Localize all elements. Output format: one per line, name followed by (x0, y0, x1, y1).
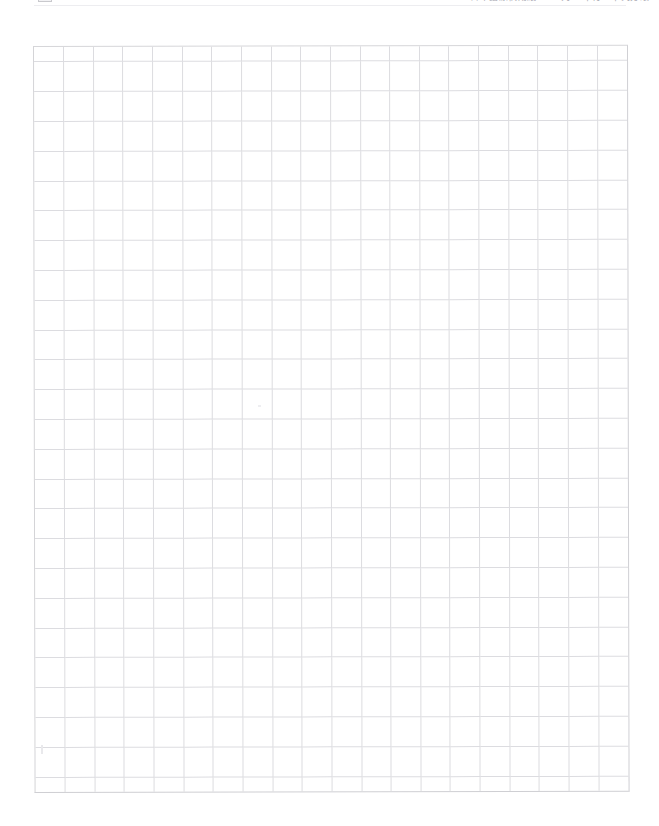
grid-cell[interactable] (569, 627, 599, 657)
grid-cell[interactable] (538, 46, 568, 61)
grid-cell[interactable] (64, 181, 94, 211)
grid-cell[interactable] (391, 508, 421, 538)
grid-cell[interactable] (182, 62, 212, 92)
grid-cell[interactable] (35, 330, 65, 360)
grid-cell[interactable] (271, 61, 301, 91)
grid-cell[interactable] (183, 359, 213, 389)
grid-cell[interactable] (213, 479, 243, 509)
grid-cell[interactable] (183, 508, 213, 538)
grid-cell[interactable] (213, 628, 243, 658)
grid-cell[interactable] (243, 568, 273, 598)
grid-cell[interactable] (272, 568, 302, 598)
grid-cell[interactable] (65, 479, 95, 509)
grid-cell[interactable] (124, 628, 154, 658)
grid-cell[interactable] (301, 61, 331, 91)
grid-cell[interactable] (182, 121, 212, 151)
grid-cell[interactable] (599, 746, 629, 776)
grid-cell[interactable] (332, 657, 362, 687)
grid-cell[interactable] (65, 568, 95, 598)
grid-cell[interactable] (391, 657, 421, 687)
grid-cell[interactable] (242, 449, 272, 479)
grid-cell[interactable] (302, 449, 332, 479)
grid-cell[interactable] (508, 120, 538, 150)
grid-cell[interactable] (64, 419, 94, 449)
grid-cell[interactable] (154, 777, 184, 792)
grid-cell[interactable] (302, 687, 332, 717)
grid-cell[interactable] (569, 537, 599, 567)
grid-cell[interactable] (182, 91, 212, 121)
grid-cell[interactable] (65, 777, 95, 792)
grid-cell[interactable] (184, 717, 214, 747)
grid-cell[interactable] (568, 210, 598, 240)
grid-cell[interactable] (480, 657, 510, 687)
grid-cell[interactable] (302, 627, 332, 657)
grid-cell[interactable] (420, 299, 450, 329)
grid-cell[interactable] (65, 747, 95, 777)
grid-cell[interactable] (124, 419, 154, 449)
grid-cell[interactable] (243, 538, 273, 568)
grid-cell[interactable] (480, 508, 510, 538)
grid-cell[interactable] (124, 687, 154, 717)
grid-cell[interactable] (331, 389, 361, 419)
grid-cell[interactable] (509, 597, 539, 627)
grid-cell[interactable] (362, 776, 392, 791)
grid-cell[interactable] (332, 776, 362, 791)
grid-cell[interactable] (272, 508, 302, 538)
grid-cell[interactable] (480, 776, 510, 791)
grid-cell[interactable] (598, 239, 628, 269)
grid-cell[interactable] (361, 389, 391, 419)
grid-cell[interactable] (93, 91, 123, 121)
grid-cell[interactable] (568, 508, 598, 538)
grid-cell[interactable] (568, 359, 598, 389)
grid-cell[interactable] (124, 330, 154, 360)
grid-cell[interactable] (153, 270, 183, 300)
grid-cell[interactable] (154, 717, 184, 747)
grid-cell[interactable] (64, 121, 94, 151)
grid-cell[interactable] (94, 598, 124, 628)
grid-cell[interactable] (360, 91, 390, 121)
grid-cell[interactable] (242, 270, 272, 300)
grid-cell[interactable] (420, 508, 450, 538)
grid-cell[interactable] (183, 300, 213, 330)
grid-cell[interactable] (35, 717, 65, 747)
grid-cell[interactable] (331, 180, 361, 210)
grid-cell[interactable] (213, 508, 243, 538)
grid-cell[interactable] (360, 210, 390, 240)
grid-cell[interactable] (508, 91, 538, 121)
grid-cell[interactable] (123, 62, 153, 92)
grid-cell[interactable] (599, 716, 629, 746)
grid-cell[interactable] (123, 121, 153, 151)
grid-cell[interactable] (420, 270, 450, 300)
grid-cell[interactable] (94, 360, 124, 390)
grid-cell[interactable] (538, 299, 568, 329)
grid-cell[interactable] (154, 628, 184, 658)
grid-cell[interactable] (420, 568, 450, 598)
grid-cell[interactable] (598, 597, 628, 627)
grid-cell[interactable] (153, 47, 183, 62)
grid-cell[interactable] (154, 658, 184, 688)
grid-cell[interactable] (450, 359, 480, 389)
grid-cell[interactable] (332, 627, 362, 657)
grid-cell[interactable] (272, 330, 302, 360)
grid-cell[interactable] (153, 240, 183, 270)
grid-cell[interactable] (35, 628, 65, 658)
grid-cell[interactable] (272, 270, 302, 300)
grid-cell[interactable] (123, 47, 153, 62)
grid-cell[interactable] (243, 777, 273, 792)
grid-cell[interactable] (419, 91, 449, 121)
grid-cell[interactable] (390, 91, 420, 121)
grid-cell[interactable] (361, 449, 391, 479)
grid-cell[interactable] (420, 329, 450, 359)
grid-cell[interactable] (449, 61, 479, 91)
grid-cell[interactable] (538, 120, 568, 150)
grid-cell[interactable] (154, 568, 184, 598)
grid-cell[interactable] (35, 539, 65, 569)
grid-cell[interactable] (212, 91, 242, 121)
grid-cell[interactable] (361, 597, 391, 627)
grid-cell[interactable] (597, 120, 627, 150)
grid-cell[interactable] (361, 657, 391, 687)
grid-cell[interactable] (391, 448, 421, 478)
grid-cell[interactable] (35, 449, 65, 479)
grid-cell[interactable] (598, 359, 628, 389)
grid-cell[interactable] (271, 91, 301, 121)
